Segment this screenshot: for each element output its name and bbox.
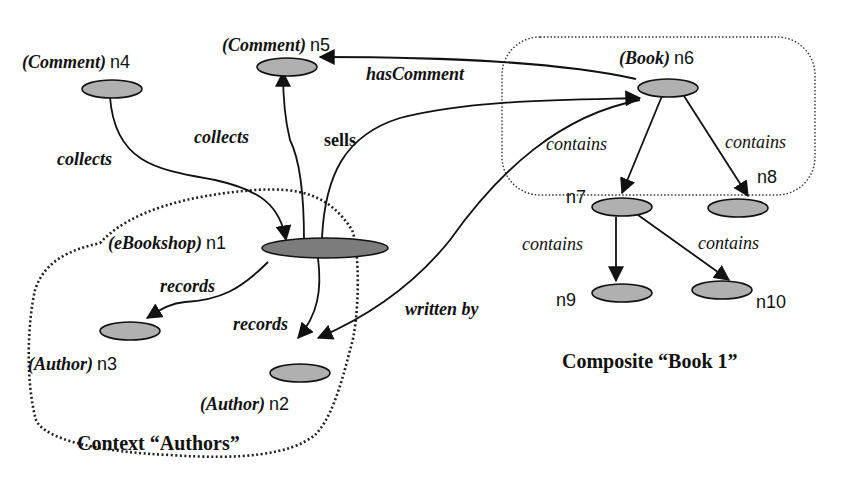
node-n4-type: (Comment) — [22, 52, 106, 72]
edge-label-n4-n1: collects — [57, 150, 112, 168]
edge-label-n1-n3: records — [160, 277, 215, 295]
node-n8[interactable] — [708, 199, 768, 217]
composite-region-label: Composite “Book 1” — [562, 351, 738, 371]
ebookshop-graph-diagram: (Comment) n4 (Comment) n5 (Book) n6 (eBo… — [0, 0, 867, 501]
node-n2-label: (Author) n2 — [200, 395, 289, 413]
edge-n4-n1 — [110, 97, 286, 240]
node-n3-id: n3 — [97, 354, 117, 374]
node-n5-id: n5 — [310, 35, 330, 55]
node-n3-label: (Author) n3 — [28, 355, 117, 373]
node-n7-id: n7 — [566, 188, 586, 206]
node-n3[interactable] — [100, 322, 160, 340]
edge-label-n7-n10: contains — [698, 234, 759, 252]
edge-n6-n7 — [622, 96, 662, 193]
edge-n1-n5 — [283, 72, 304, 240]
edge-n1-n2 — [298, 258, 319, 338]
edge-label-n7-n9: contains — [522, 235, 583, 253]
context-region-label: Context “Authors” — [77, 433, 240, 453]
node-n2-type: (Author) — [200, 394, 265, 414]
node-n10[interactable] — [692, 281, 752, 299]
edge-label-n6-n8: contains — [725, 133, 786, 151]
edge-n1-n6 — [322, 98, 640, 238]
edge-label-n1-n2: records — [233, 315, 288, 333]
node-n9-id: n9 — [556, 291, 576, 309]
node-n6-id: n6 — [674, 48, 694, 68]
node-n9[interactable] — [592, 284, 652, 302]
node-n5[interactable] — [257, 58, 317, 76]
node-n2-id: n2 — [269, 394, 289, 414]
node-n3-type: (Author) — [28, 354, 93, 374]
node-n2[interactable] — [270, 364, 330, 382]
node-n10-id: n10 — [756, 293, 786, 311]
node-n5-label: (Comment) n5 — [222, 36, 330, 54]
node-n1-type: (eBookshop) — [108, 233, 202, 253]
node-n1-id: n1 — [206, 233, 226, 253]
node-n1[interactable] — [262, 238, 388, 258]
edge-label-n6-n5: hasComment — [366, 65, 464, 83]
node-n8-id: n8 — [757, 168, 777, 186]
node-n7[interactable] — [592, 198, 652, 216]
node-n4-label: (Comment) n4 — [22, 53, 130, 71]
node-n4[interactable] — [82, 80, 142, 98]
node-n1-label: (eBookshop) n1 — [108, 234, 226, 252]
edge-label-n6-n2: written by — [405, 300, 479, 318]
edge-label-n1-n6: sells — [324, 131, 356, 149]
edge-label-n1-n5: collects — [194, 128, 249, 146]
node-n6-label: (Book) n6 — [619, 49, 694, 67]
node-n5-type: (Comment) — [222, 35, 306, 55]
edge-label-n6-n7: contains — [546, 135, 607, 153]
node-n6[interactable] — [638, 79, 698, 97]
node-n4-id: n4 — [110, 52, 130, 72]
node-n6-type: (Book) — [619, 48, 670, 68]
